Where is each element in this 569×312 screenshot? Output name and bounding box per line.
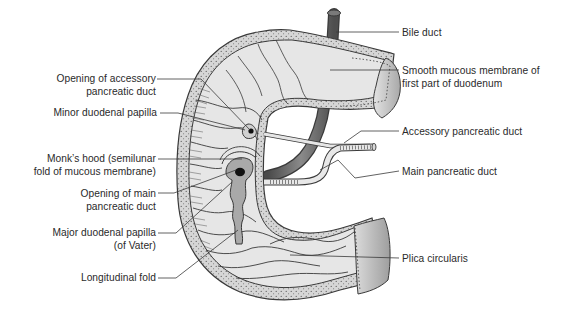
label-smooth-mucous-membrane: Smooth mucous membrane of first part of …	[402, 64, 540, 90]
duodenum-diagram: Opening of accessory pancreatic duct Min…	[0, 0, 569, 312]
label-plica-circularis: Plica circularis	[402, 252, 468, 265]
label-longitudinal-fold: Longitudinal fold	[81, 271, 156, 284]
label-major-duodenal-papilla: Major duodenal papilla (of Vater)	[52, 226, 156, 252]
label-monks-hood: Monk’s hood (semilunar fold of mucous me…	[34, 152, 156, 178]
label-opening-accessory-duct: Opening of accessory pancreatic duct	[56, 72, 156, 98]
label-accessory-pancreatic-duct: Accessory pancreatic duct	[402, 125, 522, 138]
label-minor-duodenal-papilla: Minor duodenal papilla	[53, 106, 157, 119]
label-bile-duct: Bile duct	[402, 26, 442, 39]
label-opening-main-duct: Opening of main pancreatic duct	[80, 187, 156, 213]
label-main-pancreatic-duct: Main pancreatic duct	[402, 165, 497, 178]
cut-end-bottom	[354, 218, 390, 294]
